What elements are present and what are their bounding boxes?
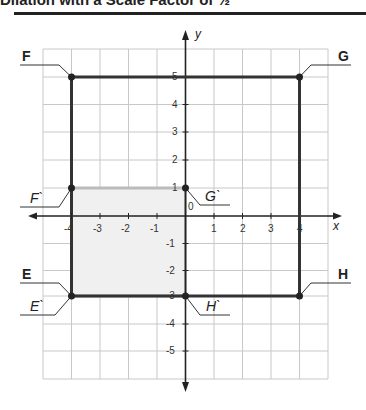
x-tick: -4 [64, 223, 73, 234]
vertex-G-prime [182, 185, 189, 192]
coordinate-plane: x y -4 -3 -2 -1 1 2 3 4 5 4 [0, 0, 366, 410]
y-axis-label: y [194, 27, 202, 41]
x-tick: -1 [150, 223, 159, 234]
y-tick: -1 [166, 238, 175, 249]
x-tick: 2 [240, 223, 246, 234]
vertex-G [296, 74, 303, 81]
y-tick: 5 [172, 71, 178, 82]
label-F: F [22, 48, 31, 64]
label-H: H [338, 266, 348, 282]
vertex-F-prime [68, 185, 75, 192]
x-tick: -3 [93, 223, 102, 234]
y-tick: -4 [166, 318, 175, 329]
y-tick: 1 [172, 182, 178, 193]
y-tick: 4 [172, 99, 178, 110]
x-tick: 3 [268, 223, 274, 234]
origin-label: 0 [188, 201, 194, 212]
x-tick: 1 [211, 223, 217, 234]
label-G-prime: G` [205, 188, 221, 204]
y-tick: 3 [172, 126, 178, 137]
x-tick: -2 [121, 223, 130, 234]
label-F-prime: F` [30, 190, 43, 206]
x-tick: 4 [297, 223, 303, 234]
label-G: G [338, 48, 349, 64]
y-tick: -3 [166, 290, 175, 301]
vertex-H-prime [182, 293, 189, 300]
vertex-F [68, 74, 75, 81]
y-tick: -5 [166, 345, 175, 356]
x-axis-label: x [332, 219, 340, 233]
vertex-E [68, 293, 75, 300]
label-E-prime: E` [30, 298, 44, 314]
label-E: E [22, 266, 31, 282]
vertex-H [296, 293, 303, 300]
y-tick: 2 [172, 154, 178, 165]
y-tick: -2 [166, 265, 175, 276]
label-H-prime: H` [206, 298, 221, 314]
